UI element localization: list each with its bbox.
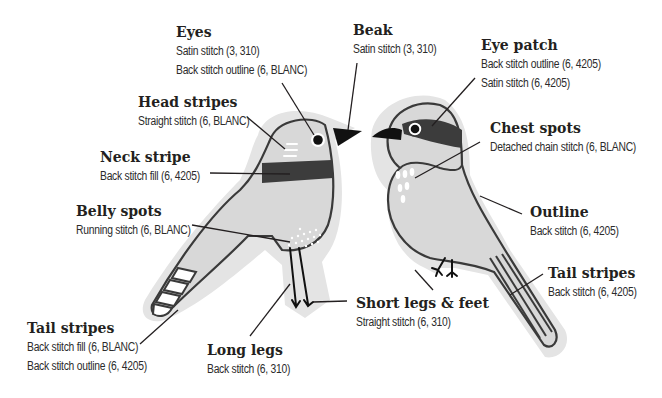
label-detail: Back stitch fill (6, 4205) — [100, 167, 200, 186]
label-title: Outline — [530, 202, 633, 222]
label-short-legs: Short legs & feet Straight stitch (6, 31… — [356, 293, 489, 332]
label-title: Beak — [353, 20, 450, 40]
label-long-legs: Long legs Back stitch (6, 310) — [207, 340, 304, 379]
label-beak: Beak Satin stitch (3, 310) — [353, 20, 450, 59]
label-tail-stripes-left: Tail stripes Back stitch fill (6, BLANC)… — [27, 318, 166, 376]
label-detail: Satin stitch (3, 310) — [176, 42, 307, 61]
left-bird-beak — [333, 128, 362, 146]
embroidery-diagram: Eyes Satin stitch (3, 310) Back stitch o… — [0, 0, 662, 398]
label-title: Tail stripes — [548, 263, 651, 283]
leader-long-legs — [250, 284, 290, 336]
label-outline: Outline Back stitch (6, 4205) — [530, 202, 633, 241]
label-title: Eyes — [176, 22, 328, 42]
label-eye-patch: Eye patch Back stitch outline (6, 4205) … — [481, 35, 620, 93]
leader-short-legs — [415, 270, 433, 290]
label-eyes: Eyes Satin stitch (3, 310) Back stitch o… — [176, 22, 328, 80]
label-detail: Back stitch outline (6, 4205) — [481, 55, 601, 74]
label-chest-spots: Chest spots Detached chain stitch (6, BL… — [490, 118, 660, 157]
label-neck-stripe: Neck stripe Back stitch fill (6, 4205) — [100, 147, 216, 186]
label-head-stripes: Head stripes Straight stitch (6, BLANC) — [138, 92, 268, 131]
label-title: Chest spots — [490, 118, 660, 138]
label-detail: Back stitch outline (6, BLANC) — [176, 61, 307, 80]
label-detail: Satin stitch (3, 310) — [353, 40, 437, 59]
leader-beak — [348, 63, 357, 130]
right-bird-eye — [411, 125, 420, 134]
left-bird-eye — [313, 135, 323, 145]
label-detail: Back stitch outline (6, 4205) — [27, 357, 147, 376]
label-detail: Straight stitch (6, 310) — [356, 313, 470, 332]
label-belly-spots: Belly spots Running stitch (6, BLANC) — [76, 201, 209, 240]
label-detail: Satin stitch (6, 4205) — [481, 74, 601, 93]
label-tail-stripes-right: Tail stripes Back stitch (6, 4205) — [548, 263, 651, 302]
label-detail: Back stitch (6, 4205) — [548, 283, 637, 302]
label-detail: Straight stitch (6, BLANC) — [138, 112, 249, 131]
label-detail: Back stitch (6, 4205) — [530, 222, 619, 241]
label-title: Short legs & feet — [356, 293, 489, 313]
label-title: Neck stripe — [100, 147, 216, 167]
label-detail: Detached chain stitch (6, BLANC) — [490, 138, 636, 157]
label-title: Tail stripes — [27, 318, 166, 338]
label-title: Belly spots — [76, 201, 209, 221]
label-detail: Running stitch (6, BLANC) — [76, 221, 191, 240]
label-detail: Back stitch (6, 310) — [207, 360, 290, 379]
label-title: Eye patch — [481, 35, 620, 55]
label-title: Long legs — [207, 340, 304, 360]
label-detail: Back stitch fill (6, BLANC) — [27, 338, 147, 357]
label-title: Head stripes — [138, 92, 268, 112]
